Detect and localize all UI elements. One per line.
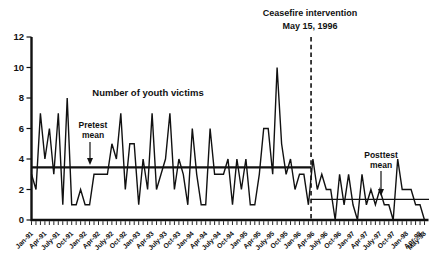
axes: 024681012Jan-91Apr-91July-91Oct-91Jan-92… [13, 31, 428, 252]
intervention-label-line1: Ceasefire intervention [263, 8, 358, 18]
posttest-mean-label-line1: Posttest [364, 150, 398, 160]
y-tick-label: 8 [19, 92, 24, 103]
y-tick-label: 4 [19, 153, 25, 164]
y-tick-label: 6 [19, 123, 24, 134]
chart-canvas: Ceasefire intervention May 15, 1996 Numb… [0, 0, 433, 264]
series-label: Number of youth victims [92, 87, 203, 98]
y-tick-label: 2 [19, 184, 24, 195]
pretest-mean-label-line1: Pretest [79, 120, 108, 130]
youth-victims-time-series-chart: Ceasefire intervention May 15, 1996 Numb… [0, 0, 433, 264]
pretest-down-arrow-icon [87, 142, 93, 165]
y-tick-label: 12 [13, 31, 24, 42]
intervention-label-line2: May 15, 1996 [282, 21, 337, 31]
pretest-mean-label-line2: mean [82, 130, 104, 140]
y-tick-label: 10 [13, 62, 24, 73]
y-tick-label: 0 [19, 214, 24, 225]
posttest-mean-label-line2: mean [370, 160, 392, 170]
